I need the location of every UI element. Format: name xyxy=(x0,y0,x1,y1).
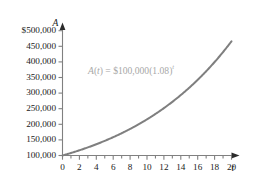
x-axis-title: t xyxy=(232,164,235,174)
y-axis-tick-label: $500,000 xyxy=(22,26,56,35)
equation-annotation: A(t) = $100,000(1.08)t xyxy=(88,65,174,76)
equation-equals-sign: = xyxy=(103,65,113,76)
y-axis-tick-label: 200,000 xyxy=(26,120,56,129)
y-axis-arrowhead xyxy=(60,23,66,31)
exponential-curve-group xyxy=(63,41,232,155)
tick-marks-group xyxy=(59,31,232,160)
y-axis-title: A xyxy=(53,19,59,29)
y-axis-tick-label: 350,000 xyxy=(26,73,56,82)
y-axis-tick-label: 400,000 xyxy=(26,57,56,66)
x-axis-arrowhead xyxy=(232,152,240,158)
y-axis-tick-label: 250,000 xyxy=(26,104,56,113)
equation-exponent: t xyxy=(172,63,174,70)
axes-group xyxy=(60,23,240,159)
exponential-curve xyxy=(63,41,232,155)
chart-container: $500,000450,000400,000350,000300,000250,… xyxy=(0,0,254,186)
y-axis-tick-label: 450,000 xyxy=(26,42,56,51)
y-axis-tick-label: 100,000 xyxy=(26,151,56,160)
y-axis-tick-label: 150,000 xyxy=(26,135,56,144)
equation-principal: $100,000 xyxy=(113,65,149,76)
equation-base: 1.08 xyxy=(152,65,169,76)
y-axis-tick-label: 300,000 xyxy=(26,88,56,97)
